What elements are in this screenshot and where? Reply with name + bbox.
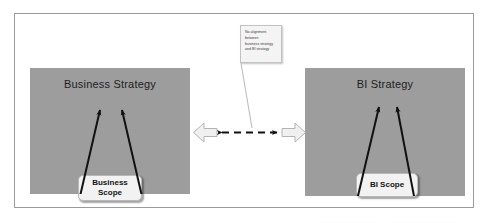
- node-business-scope: Business Scope: [78, 175, 142, 201]
- diagram-canvas: Business Strategy Business Scope Busines…: [0, 0, 489, 223]
- business-strategy-panel: Business Strategy Business Scope Busines…: [30, 68, 190, 194]
- node-bi-scope: BI Scope: [356, 173, 418, 197]
- business-strategy-panel-title: Business Strategy: [30, 78, 190, 90]
- misalignment-callout: No alignment between business strategy a…: [240, 25, 282, 63]
- bi-strategy-panel-title: BI Strategy: [305, 78, 465, 90]
- bi-strategy-panel: BI Strategy BI Scope BI Competencies BI …: [305, 68, 465, 196]
- node-business-scope-line1: Business: [92, 178, 128, 187]
- node-bi-scope-label: BI Scope: [370, 180, 404, 190]
- callout-line-4: and BI strategy: [245, 47, 278, 53]
- node-business-scope-line2: Scope: [98, 188, 122, 197]
